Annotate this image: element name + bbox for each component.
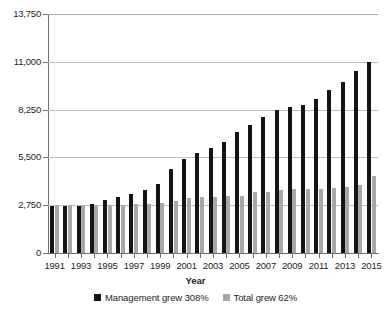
x-axis-tick-label: 2015 (351, 261, 391, 271)
x-tick-mark (371, 254, 372, 258)
bar-group (154, 14, 167, 253)
bar-group (299, 14, 312, 253)
bar-group (167, 14, 180, 253)
bar-management (116, 197, 120, 253)
bar-management (222, 142, 226, 253)
x-tick-mark (279, 254, 280, 258)
bar-total (279, 190, 283, 253)
x-tick-mark (332, 254, 333, 258)
bar-management (248, 125, 252, 253)
bar-management (314, 99, 318, 253)
bar-total (160, 203, 164, 253)
x-tick-mark (134, 254, 135, 258)
bar-management (209, 148, 213, 253)
x-tick-mark (226, 254, 227, 258)
bar-total (121, 205, 125, 253)
bar-total (358, 185, 362, 253)
bar-group (352, 14, 365, 253)
bar-group (114, 14, 127, 253)
legend-label: Total grew 62% (234, 293, 298, 303)
bar-group (180, 14, 193, 253)
bar-total (332, 188, 336, 253)
bar-group (193, 14, 206, 253)
bar-group (61, 14, 74, 253)
bar-management (182, 159, 186, 253)
x-tick-mark (55, 254, 56, 258)
y-axis-tick-label: 11,000 (0, 57, 41, 67)
bar-total (372, 176, 376, 253)
bar-management (50, 206, 54, 253)
bar-group (338, 14, 351, 253)
legend-item: Total grew 62% (223, 293, 298, 303)
x-tick-mark (147, 254, 148, 258)
bar-total (200, 197, 204, 253)
bar-group (286, 14, 299, 253)
y-axis-tick-label: 13,750 (0, 9, 41, 19)
bar-group (101, 14, 114, 253)
x-tick-mark (173, 254, 174, 258)
y-axis-tick-label: 8,250 (0, 105, 41, 115)
bar-total (55, 205, 59, 253)
x-tick-mark (160, 254, 161, 258)
bar-management (327, 90, 331, 253)
bar-group (220, 14, 233, 253)
bar-management (261, 117, 265, 253)
bar-total (81, 205, 85, 253)
bar-group (74, 14, 87, 253)
bar-total (174, 201, 178, 253)
bar-total (253, 192, 257, 253)
x-tick-mark (94, 254, 95, 258)
bar-total (240, 196, 244, 253)
legend-swatch-total (223, 294, 230, 301)
chart-legend: Management grew 308%Total grew 62% (0, 293, 391, 303)
bar-total (292, 189, 296, 253)
bar-group (233, 14, 246, 253)
bar-management (341, 82, 345, 253)
x-tick-mark (68, 254, 69, 258)
bar-group (206, 14, 219, 253)
bar-total (266, 192, 270, 253)
bar-management (90, 204, 94, 253)
bar-total (306, 189, 310, 253)
y-axis-tick-label: 5,500 (0, 152, 41, 162)
bar-management (354, 71, 358, 253)
bar-management (275, 110, 279, 253)
bar-total (94, 205, 98, 253)
bar-total (68, 205, 72, 253)
bar-series-layer (48, 14, 378, 253)
bar-total (147, 204, 151, 253)
x-tick-mark (239, 254, 240, 258)
bar-management (103, 200, 107, 253)
bar-total (319, 189, 323, 253)
bar-group (325, 14, 338, 253)
bar-group (140, 14, 153, 253)
bar-total (345, 187, 349, 253)
x-tick-mark (187, 254, 188, 258)
x-tick-mark (107, 254, 108, 258)
x-tick-mark (319, 254, 320, 258)
bar-management (63, 206, 67, 253)
x-tick-mark (200, 254, 201, 258)
x-tick-mark (253, 254, 254, 258)
bar-management (156, 184, 160, 253)
bar-total (226, 196, 230, 253)
bar-chart-figure: 13,75011,0008,2505,5002,7500 19911993199… (0, 0, 391, 319)
y-axis-tick-label: 2,750 (0, 200, 41, 210)
x-tick-mark (266, 254, 267, 258)
bar-total (108, 205, 112, 253)
bar-group (312, 14, 325, 253)
x-tick-mark (121, 254, 122, 258)
bar-group (48, 14, 61, 253)
bar-total (213, 197, 217, 253)
bar-group (127, 14, 140, 253)
bar-group (259, 14, 272, 253)
bar-group (246, 14, 259, 253)
x-tick-mark (345, 254, 346, 258)
bar-group (272, 14, 285, 253)
bar-management (288, 107, 292, 253)
bar-total (134, 204, 138, 253)
bar-total (187, 198, 191, 253)
bar-management (195, 153, 199, 253)
legend-swatch-management (94, 294, 101, 301)
legend-item: Management grew 308% (94, 293, 209, 303)
